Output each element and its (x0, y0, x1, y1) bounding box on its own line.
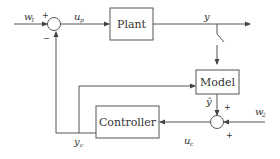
sum2-plus-top-sign: + (224, 103, 231, 112)
w2-sub: 2 (261, 111, 266, 118)
controller-label: Controller (99, 116, 157, 129)
yc-label: y (73, 136, 80, 147)
y-label: y (203, 11, 210, 22)
plant-label: Plant (117, 18, 147, 31)
uc-sub: c (190, 140, 194, 147)
summing-junction-1 (48, 18, 61, 31)
yhat-label: ŷ (205, 96, 212, 107)
switch-icon (217, 34, 224, 42)
up-sub: p (80, 16, 84, 24)
w1-sub: 1 (31, 16, 35, 23)
sum2-plus-bottom-sign: + (226, 131, 233, 140)
sum1-plus-sign: + (42, 11, 49, 20)
sum1-minus-sign: − (43, 34, 50, 43)
summing-junction-2 (211, 116, 224, 129)
block-diagram: Plant Model Controller w 1 + − u p y ŷ +… (0, 0, 280, 159)
yc-sub: c (80, 141, 84, 148)
model-label: Model (200, 76, 235, 89)
